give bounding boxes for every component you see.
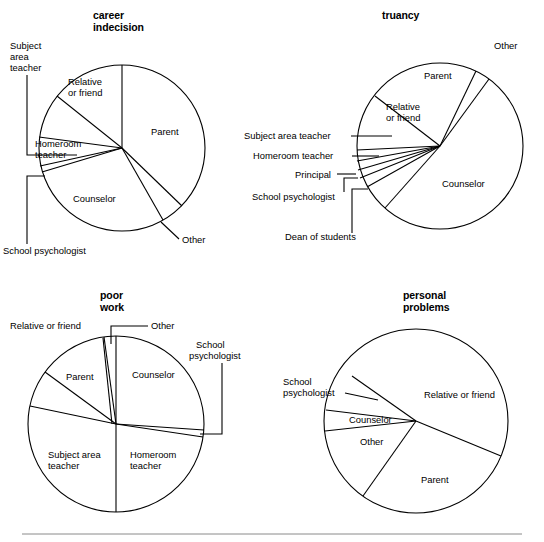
slice-label-parent: Parent [151,126,179,137]
chart-personal-problems: personal problems Relative or friend Par… [283,289,508,513]
slice-label-other: Other [151,320,174,331]
chart-title-line2: problems [403,301,450,313]
leader-dean-of-students [352,189,368,233]
chart-title-line1: personal [403,289,446,301]
slice-label-counselor: Counselor [349,414,392,425]
chart-title-line2: work [99,301,124,313]
slice-label-school-psych-l2: psychologist [189,350,241,361]
chart-career-indecision: career indecision Parent Counselor Homer… [3,9,205,256]
slice-label-subject-area-l1: Subject [10,40,42,51]
chart-truancy: truancy Parent Relative or friend Counse… [244,9,523,242]
slice-label-relative-l1: Relative [68,76,102,87]
slice-label-relative-l2: or friend [386,112,420,123]
leader-school-psychologist [27,176,45,244]
slice-label-counselor: Counselor [132,369,175,380]
pie-chart-figure: career indecision Parent Counselor Homer… [0,0,544,542]
slice-label-other: Other [360,436,383,447]
slice-label-school-psych-l1: School [196,339,225,350]
chart-title-line2: indecision [93,21,144,33]
slice-label-subject-area-teacher: Subject area teacher [244,130,331,141]
slice-label-parent: Parent [421,474,449,485]
leader-school-psychologist [344,178,358,192]
slice-label-homeroom-l1: Homeroom [35,138,82,149]
slice-label-homeroom-l1: Homeroom [130,449,177,460]
chart-title-truancy: truancy [382,9,419,21]
slice-label-school-psychologist: School psychologist [3,245,86,256]
slice-label-relative-or-friend: Relative or friend [424,389,495,400]
slice-label-parent: Parent [66,371,94,382]
slice-label-principal: Principal [295,169,331,180]
chart-title-line1: poor [100,289,123,301]
slice-label-parent: Parent [424,70,452,81]
slice-label-other: Other [182,234,205,245]
slice-label-subject-area-l3: teacher [10,62,41,73]
slice-label-relative-l1: Relative [386,101,420,112]
slice-label-school-psych-l2: psychologist [283,387,335,398]
slice-label-school-psychologist: School psychologist [252,191,335,202]
figure-canvas: career indecision Parent Counselor Homer… [0,0,544,542]
slice-label-subject-area-l2: teacher [48,460,79,471]
slice-label-school-psych-l1: School [283,376,312,387]
slice-label-relative-or-friend: Relative or friend [10,320,81,331]
slice-label-homeroom-l2: teacher [130,460,161,471]
slice-label-relative-l2: or friend [68,87,102,98]
slice-label-counselor: Counselor [442,178,485,189]
slice-label-other: Other [494,40,517,51]
slice-label-dean-of-students: Dean of students [285,231,356,242]
chart-title-line1: career [93,9,124,21]
chart-poor-work: poor work Counselor Homeroom teacher Sub… [10,289,241,512]
slice-label-subject-area-l2: area [10,51,30,62]
slice-label-counselor: Counselor [73,193,116,204]
leader-other [161,222,179,239]
slice-label-subject-area-l1: Subject area [48,449,101,460]
slice-label-homeroom-teacher: Homeroom teacher [253,150,333,161]
